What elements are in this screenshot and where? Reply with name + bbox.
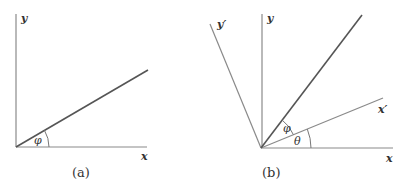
panel-a-caption: (a) [72,165,90,180]
panel-b-x-label: x [385,152,393,165]
panel-b-x-prime-label: x′ [377,103,388,116]
panel-b-y-prime-label: y′ [216,18,226,31]
panel-a-y-label: y [20,12,29,25]
panel-b-vector [261,15,362,148]
panel-b-y-label: y [266,12,275,25]
panel-a: φ y x (a) [16,12,148,180]
panel-b: φ θ y y′ x′ x (b) [210,12,393,180]
panel-b-phi-label: φ [283,122,291,135]
panel-b-y-prime-axis [210,24,261,148]
panel-b-caption: (b) [262,165,280,180]
panel-a-phi-arc [45,130,50,147]
diagram-canvas: φ y x (a) φ θ y y′ x′ x (b) [0,0,408,187]
panel-b-theta-label: θ [294,135,301,148]
panel-a-x-label: x [140,150,148,163]
panel-a-phi-label: φ [34,134,42,147]
panel-b-theta-arc [307,129,311,148]
